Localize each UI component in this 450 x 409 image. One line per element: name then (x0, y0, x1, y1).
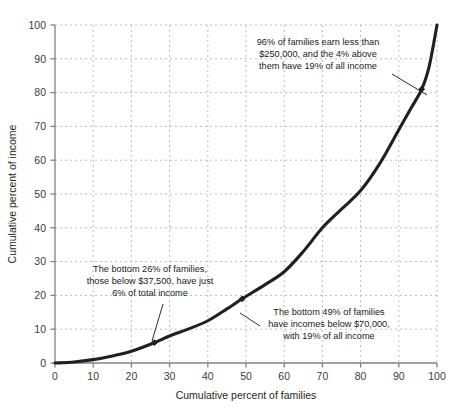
annotation-top: 96% of families earn less than$250,000, … (257, 37, 380, 71)
annotation-top-leader-line (392, 74, 427, 95)
x-tick-label: 60 (278, 370, 290, 382)
annotation-left-leader-line (152, 304, 163, 341)
y-axis-title: Cumulative percent of income (6, 124, 18, 263)
annotation-left-line-2: those below $37,500, have just (87, 276, 214, 286)
x-tick-label: 30 (164, 370, 176, 382)
y-tick-label: 70 (34, 120, 46, 132)
y-tick-label: 0 (40, 357, 46, 369)
chart-canvas: 0102030405060708090100 01020304050607080… (0, 0, 450, 409)
x-tick-label: 20 (126, 370, 138, 382)
x-tick-label: 90 (393, 370, 405, 382)
y-tick-label: 20 (34, 289, 46, 301)
annotation-left-line-1: The bottom 26% of families, (93, 264, 207, 274)
annotation-right: The bottom 49% of familieshave incomes b… (268, 307, 390, 341)
x-axis-title: Cumulative percent of families (176, 389, 317, 401)
y-tick-label: 50 (34, 188, 46, 200)
annotation-right-leader-line (240, 313, 260, 326)
annotation-left: The bottom 26% of families,those below $… (87, 264, 214, 298)
y-tick-label: 10 (34, 323, 46, 335)
annotation-left-line-3: 6% of total income (112, 288, 188, 298)
x-tick-label: 70 (317, 370, 329, 382)
y-tick-label: 100 (28, 19, 46, 31)
x-tick-label: 80 (355, 370, 367, 382)
x-tick-label: 50 (240, 370, 252, 382)
lorenz-curve-chart: 0102030405060708090100 01020304050607080… (0, 0, 450, 409)
x-tick-label: 0 (52, 370, 58, 382)
annotation-leader-lines (152, 74, 427, 341)
annotation-top-line-2: $250,000, and the 4% above (259, 49, 377, 59)
axis-titles: Cumulative percent of familiesCumulative… (6, 124, 316, 401)
y-tick-label: 60 (34, 154, 46, 166)
annotation-top-line-3: them have 19% of all income (259, 61, 377, 71)
y-tick-label: 30 (34, 255, 46, 267)
annotation-right-line-3: with 19% of all income (282, 331, 374, 341)
y-tick-label: 90 (34, 53, 46, 65)
annotation-top-line-1: 96% of families earn less than (257, 37, 380, 47)
y-tick-label: 40 (34, 222, 46, 234)
annotation-right-line-1: The bottom 49% of families (273, 307, 385, 317)
x-tick-label: 100 (428, 370, 446, 382)
y-tick-labels: 0102030405060708090100 (28, 19, 46, 369)
annotation-labels: 96% of families earn less than$250,000, … (87, 37, 390, 341)
x-tick-label: 40 (202, 370, 214, 382)
x-tick-labels: 0102030405060708090100 (52, 370, 446, 382)
x-tick-label: 10 (87, 370, 99, 382)
annotation-right-line-2: have incomes below $70,000, (268, 319, 390, 329)
y-tick-label: 80 (34, 86, 46, 98)
